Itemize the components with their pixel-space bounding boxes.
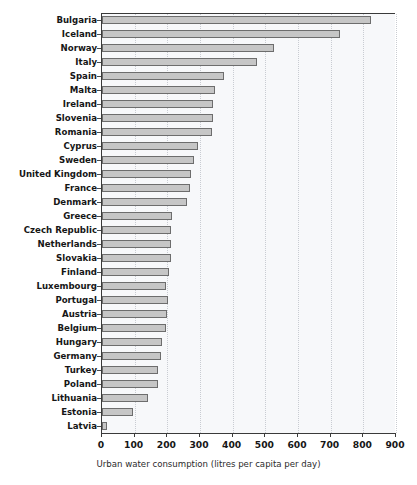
category-label: Lithuania [0, 394, 97, 403]
bar[interactable] [102, 352, 161, 361]
category-label: Netherlands [0, 240, 97, 249]
bar-row[interactable] [102, 336, 396, 351]
x-axis-tick [232, 433, 233, 437]
bar[interactable] [102, 240, 171, 249]
bar[interactable] [102, 212, 172, 221]
bar-row[interactable] [102, 112, 396, 127]
x-axis-tick [330, 433, 331, 437]
bar-row[interactable] [102, 154, 396, 169]
category-label: Iceland [0, 30, 97, 39]
bar[interactable] [102, 338, 162, 347]
bar-row[interactable] [102, 140, 396, 155]
x-axis-tick-label: 0 [98, 439, 104, 450]
bar-row[interactable] [102, 322, 396, 337]
bar-row[interactable] [102, 84, 396, 99]
bar[interactable] [102, 184, 190, 193]
bar-chart: BulgariaIcelandNorwayItalySpainMaltaIrel… [0, 0, 417, 485]
category-label: Malta [0, 86, 97, 95]
bar-row[interactable] [102, 42, 396, 57]
x-axis-tick-label: 400 [222, 439, 241, 450]
x-axis-tick [264, 433, 265, 437]
x-axis-tick [134, 433, 135, 437]
bar-row[interactable] [102, 28, 396, 43]
category-label: Romania [0, 128, 97, 137]
bar-row[interactable] [102, 14, 396, 29]
bar-row[interactable] [102, 266, 396, 281]
category-label: Germany [0, 352, 97, 361]
category-label: Slovenia [0, 114, 97, 123]
category-label: Cyprus [0, 142, 97, 151]
category-label: Hungary [0, 338, 97, 347]
category-label: Latvia [0, 422, 97, 431]
x-axis-line [101, 433, 395, 434]
bars-layer [102, 14, 395, 433]
bar[interactable] [102, 170, 191, 179]
category-label: Luxembourg [0, 282, 97, 291]
bar[interactable] [102, 282, 166, 291]
bar[interactable] [102, 198, 187, 207]
bar[interactable] [102, 380, 158, 389]
bar-row[interactable] [102, 406, 396, 421]
x-axis-tick-label: 800 [353, 439, 372, 450]
bar-row[interactable] [102, 294, 396, 309]
bar-row[interactable] [102, 280, 396, 295]
bar-row[interactable] [102, 378, 396, 393]
x-axis-tick-label: 200 [157, 439, 176, 450]
bar[interactable] [102, 142, 198, 151]
category-label: Turkey [0, 366, 97, 375]
category-label: Denmark [0, 198, 97, 207]
category-label: Portugal [0, 296, 97, 305]
category-label: Belgium [0, 324, 97, 333]
bar-row[interactable] [102, 56, 396, 71]
category-axis: BulgariaIcelandNorwayItalySpainMaltaIrel… [0, 13, 97, 433]
bar[interactable] [102, 16, 371, 25]
bar[interactable] [102, 268, 169, 277]
bar-row[interactable] [102, 70, 396, 85]
bar-row[interactable] [102, 168, 396, 183]
category-label: Finland [0, 268, 97, 277]
bar[interactable] [102, 296, 168, 305]
bar[interactable] [102, 156, 194, 165]
bar-row[interactable] [102, 224, 396, 239]
x-axis-tick-label: 700 [320, 439, 339, 450]
bar[interactable] [102, 30, 340, 39]
bar[interactable] [102, 86, 215, 95]
bar-row[interactable] [102, 350, 396, 365]
bar[interactable] [102, 226, 171, 235]
x-axis-tick-label: 300 [189, 439, 208, 450]
bar-row[interactable] [102, 238, 396, 253]
bar-row[interactable] [102, 126, 396, 141]
x-axis-tick-label: 900 [385, 439, 404, 450]
category-label: Norway [0, 44, 97, 53]
x-axis-tick [297, 433, 298, 437]
bar-row[interactable] [102, 196, 396, 211]
bar[interactable] [102, 366, 158, 375]
bar-row[interactable] [102, 364, 396, 379]
bar[interactable] [102, 310, 167, 319]
bar-row[interactable] [102, 308, 396, 323]
category-label: Poland [0, 380, 97, 389]
category-label: United Kingdom [0, 170, 97, 179]
bar-row[interactable] [102, 182, 396, 197]
bar[interactable] [102, 44, 274, 53]
bar-row[interactable] [102, 210, 396, 225]
category-label: Italy [0, 58, 97, 67]
bar[interactable] [102, 128, 212, 137]
bar[interactable] [102, 422, 107, 431]
category-label: Czech Republic [0, 226, 97, 235]
bar[interactable] [102, 114, 213, 123]
bar-row[interactable] [102, 98, 396, 113]
bar[interactable] [102, 408, 133, 417]
plot-area [101, 13, 395, 433]
category-label: Austria [0, 310, 97, 319]
bar-row[interactable] [102, 392, 396, 407]
category-label: Spain [0, 72, 97, 81]
bar[interactable] [102, 58, 257, 67]
bar[interactable] [102, 100, 213, 109]
bar[interactable] [102, 254, 171, 263]
bar[interactable] [102, 72, 224, 81]
x-axis-tick-label: 100 [124, 439, 143, 450]
bar[interactable] [102, 324, 166, 333]
bar[interactable] [102, 394, 148, 403]
bar-row[interactable] [102, 252, 396, 267]
